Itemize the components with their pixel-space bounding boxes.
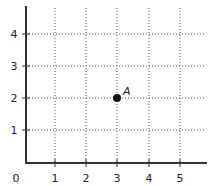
x-tick-labels: 0 1 2 3 4 5 [13,172,184,185]
y-tick-3: 3 [11,60,18,73]
y-tick-2: 2 [11,92,18,105]
x-tick-1: 1 [52,172,59,185]
y-tick-labels: 1 2 3 4 [11,28,18,137]
x-tick-3: 3 [114,172,121,185]
point-a [113,94,121,102]
coordinate-grid-chart: 0 1 2 3 4 5 1 2 3 4 A [0,0,212,186]
x-tick-4: 4 [146,172,153,185]
x-tick-5: 5 [177,172,184,185]
y-tick-4: 4 [11,28,18,41]
x-tick-0: 0 [13,172,20,185]
grid-lines [26,8,205,163]
y-tick-1: 1 [11,124,18,137]
x-tick-2: 2 [83,172,90,185]
point-a-label: A [122,85,131,98]
